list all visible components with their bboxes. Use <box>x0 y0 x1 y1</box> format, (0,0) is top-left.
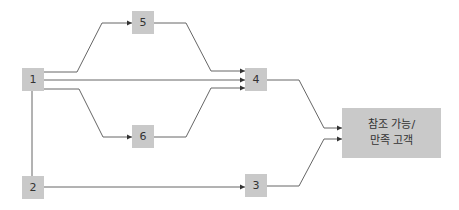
target-label-line2: 만족 고객 <box>370 133 414 149</box>
edge-1-to-5 <box>44 23 132 72</box>
edges-layer <box>0 0 459 210</box>
node-target-referenceable-customer: 참조 가능/ 만족 고객 <box>342 108 441 158</box>
edge-1-to-6 <box>44 89 132 137</box>
target-label-line1: 참조 가능/ <box>368 117 415 133</box>
node-3: 3 <box>245 174 267 197</box>
edge-5-to-4 <box>154 23 245 71</box>
edge-4-to-target <box>267 80 342 128</box>
node-6: 6 <box>132 125 154 148</box>
node-2: 2 <box>22 176 44 199</box>
node-2-label: 2 <box>30 181 37 194</box>
node-4-label: 4 <box>253 73 260 86</box>
node-4: 4 <box>245 68 267 91</box>
node-1: 1 <box>22 68 44 91</box>
edge-6-to-4 <box>154 88 245 137</box>
node-5: 5 <box>132 11 154 34</box>
node-3-label: 3 <box>253 179 260 192</box>
edge-3-to-target <box>267 139 342 186</box>
node-1-label: 1 <box>30 73 37 86</box>
node-5-label: 5 <box>140 16 147 29</box>
node-6-label: 6 <box>140 130 147 143</box>
